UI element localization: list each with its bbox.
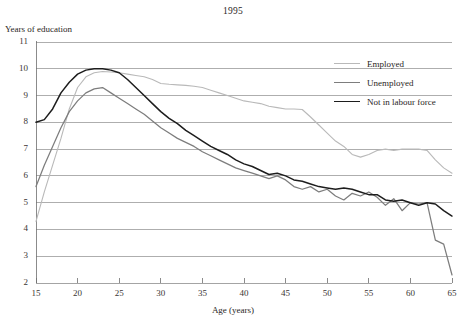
- x-tick-label: 25: [104, 288, 134, 298]
- y-tick-label: 5: [6, 197, 28, 207]
- y-tick-label: 10: [6, 63, 28, 73]
- plot-area: [0, 0, 466, 329]
- y-tick-label: 8: [6, 116, 28, 126]
- x-tick-label: 35: [187, 288, 217, 298]
- legend-label: Not in labour force: [367, 97, 436, 107]
- x-tick-label: 30: [146, 288, 176, 298]
- legend-line-swatch: [334, 101, 360, 102]
- x-tick-label: 20: [63, 288, 93, 298]
- legend-label: Unemployed: [367, 78, 414, 88]
- legend-label: Employed: [367, 59, 404, 69]
- chart-figure: 1995 Years of education 234567891011 152…: [0, 0, 466, 329]
- x-tick-label: 45: [271, 288, 301, 298]
- chart-legend: EmployedUnemployedNot in labour force: [334, 54, 464, 111]
- legend-line-swatch: [334, 63, 360, 64]
- x-tick-label: 15: [21, 288, 51, 298]
- y-tick-label: 3: [6, 250, 28, 260]
- x-axis-label: Age (years): [0, 305, 466, 315]
- y-tick-label: 4: [6, 223, 28, 233]
- legend-item: Employed: [334, 54, 464, 73]
- x-tick-label: 40: [229, 288, 259, 298]
- x-tick-label: 65: [437, 288, 466, 298]
- series-line-unemployed: [36, 88, 452, 275]
- y-tick-label: 2: [6, 277, 28, 287]
- legend-item: Unemployed: [334, 73, 464, 92]
- y-tick-label: 7: [6, 143, 28, 153]
- legend-item: Not in labour force: [334, 92, 464, 111]
- legend-line-swatch: [334, 82, 360, 83]
- x-tick-label: 55: [354, 288, 384, 298]
- y-tick-label: 11: [6, 36, 28, 46]
- x-tick-label: 60: [395, 288, 425, 298]
- y-tick-label: 9: [6, 90, 28, 100]
- y-tick-label: 6: [6, 170, 28, 180]
- x-tick-label: 50: [312, 288, 342, 298]
